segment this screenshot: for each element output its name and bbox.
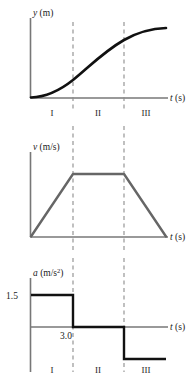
position-region-label-2: II bbox=[95, 108, 101, 118]
acceleration-x-axis-label: t (s) bbox=[170, 322, 185, 333]
acceleration-y-tick-label: 1.5 bbox=[6, 291, 18, 301]
position-region-label-3: III bbox=[142, 108, 151, 118]
velocity-y-axis-label: v (m/s) bbox=[33, 142, 60, 153]
position-y-axis-label: y (m) bbox=[32, 8, 53, 19]
acceleration-region-label-1: I bbox=[51, 365, 54, 375]
acceleration-y-axis-label: a (m/s2) bbox=[33, 267, 63, 280]
position-x-axis-label: t (s) bbox=[170, 93, 185, 104]
panel-velocity: v (m/s) t (s) bbox=[31, 126, 186, 252]
figure-canvas: y (m) t (s) I II III v (m/s) bbox=[0, 0, 192, 391]
velocity-x-axis-label: t (s) bbox=[170, 232, 185, 243]
panel-acceleration: a (m/s2) t (s) 1.5 3.0 I II III bbox=[6, 258, 185, 375]
panel-position: y (m) t (s) I II III bbox=[31, 8, 186, 118]
velocity-curve bbox=[31, 174, 166, 237]
position-region-label-1: I bbox=[51, 108, 54, 118]
acceleration-region-label-2: II bbox=[95, 365, 101, 375]
acceleration-region-label-3: III bbox=[142, 365, 151, 375]
kinematics-figure: y (m) t (s) I II III v (m/s) bbox=[0, 0, 192, 391]
position-curve bbox=[31, 28, 166, 98]
acceleration-x-tick-label: 3.0 bbox=[60, 331, 72, 341]
